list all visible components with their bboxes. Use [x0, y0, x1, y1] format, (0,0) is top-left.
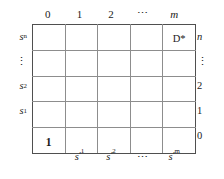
left-label-blank: [2, 123, 30, 148]
cell-r3-c0[interactable]: [33, 102, 66, 128]
cell-r2-c0[interactable]: [33, 76, 66, 102]
right-label-ellipsis: ⋮: [192, 49, 220, 74]
cell-r3-c3[interactable]: [130, 102, 163, 128]
top-label-ellipsis: ⋯: [127, 6, 159, 21]
cell-r0-c4-dstar[interactable]: D*: [163, 25, 196, 51]
top-label-m-text: m: [170, 8, 178, 20]
cell-r2-c4[interactable]: [163, 76, 196, 102]
bottom-label-blank: [32, 150, 64, 170]
left-label-s1-base: s: [19, 105, 23, 116]
table-row: D*: [33, 25, 196, 51]
cell-r1-c4[interactable]: [163, 50, 196, 76]
top-label-m: m: [158, 6, 190, 21]
right-label-0: 0: [192, 123, 220, 148]
cell-r1-c2[interactable]: [98, 50, 131, 76]
top-label-1-text: 1: [77, 8, 83, 20]
grid-table: D*: [32, 24, 196, 154]
left-axis-labels: sn ⋮ s2 s1: [2, 24, 30, 148]
right-label-ellipsis-text: ⋮: [197, 57, 208, 66]
top-label-2: 2: [95, 6, 127, 21]
table-row: [33, 76, 196, 102]
cell-r1-c3[interactable]: [130, 50, 163, 76]
table-row: [33, 102, 196, 128]
left-label-s2: s2: [2, 74, 30, 99]
top-label-1: 1: [64, 6, 96, 21]
cell-r4-c0-text: 1: [46, 136, 52, 148]
right-label-2: 2: [192, 74, 220, 99]
cell-r2-c1[interactable]: [65, 76, 98, 102]
right-label-n-text: n: [197, 31, 202, 42]
cell-r2-c2[interactable]: [98, 76, 131, 102]
cell-r0-c0[interactable]: [33, 25, 66, 51]
cell-r2-c3[interactable]: [130, 76, 163, 102]
cell-r1-c0[interactable]: [33, 50, 66, 76]
top-label-0-text: 0: [45, 8, 51, 20]
cell-r0-c4-text: D*: [173, 33, 186, 44]
cell-r3-c1[interactable]: [65, 102, 98, 128]
bottom-label-s1prime: s′1: [64, 150, 96, 170]
grid-diagram: 0 1 2 ⋯ m sn ⋮ s2 s1 D*: [0, 0, 224, 179]
cell-r0-c3[interactable]: [130, 25, 163, 51]
top-axis-labels: 0 1 2 ⋯ m: [32, 6, 190, 21]
left-label-ellipsis: ⋮: [2, 49, 30, 74]
bottom-label-smprime: s′m: [158, 150, 190, 170]
right-label-0-text: 0: [197, 130, 202, 141]
left-label-ellipsis-base: ⋮: [16, 57, 27, 66]
right-label-2-text: 2: [197, 80, 202, 91]
top-label-2-text: 2: [108, 8, 114, 20]
left-label-s2-base: s: [19, 80, 23, 91]
top-label-0: 0: [32, 6, 64, 21]
cell-r0-c1[interactable]: [65, 25, 98, 51]
table-row: [33, 50, 196, 76]
right-label-1-text: 1: [197, 105, 202, 116]
cell-r3-c4[interactable]: [163, 102, 196, 128]
right-axis-labels: n ⋮ 2 1 0: [192, 24, 220, 148]
bottom-axis-labels: s′1 s′2 ⋯ s′m: [32, 150, 190, 170]
left-label-sn-base: s: [19, 31, 23, 42]
bottom-label-ellipsis-base: ⋯: [137, 151, 149, 164]
right-label-1: 1: [192, 98, 220, 123]
right-label-n: n: [192, 24, 220, 49]
bottom-label-s2prime: s′2: [95, 150, 127, 170]
top-label-ellipsis-text: ⋯: [137, 7, 149, 20]
cell-r1-c1[interactable]: [65, 50, 98, 76]
left-label-sn: sn: [2, 24, 30, 49]
bottom-label-ellipsis: ⋯: [127, 150, 159, 170]
cell-r0-c2[interactable]: [98, 25, 131, 51]
cell-r3-c2[interactable]: [98, 102, 131, 128]
left-label-s1: s1: [2, 98, 30, 123]
